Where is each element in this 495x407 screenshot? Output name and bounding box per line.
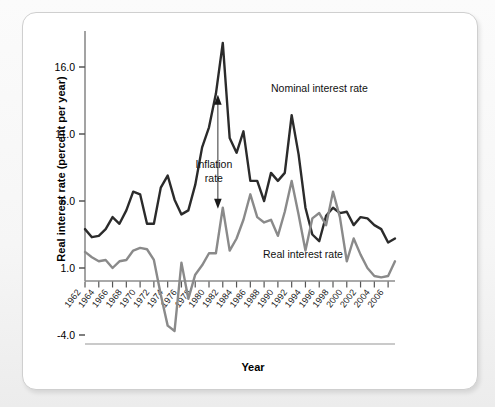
series-line-real [85, 181, 395, 331]
x-axis-title: Year [173, 361, 333, 373]
inflation-rate-arrow [214, 95, 222, 209]
line-chart: 16.011.06.01.0-4.0 196219641966196819701… [23, 13, 478, 390]
y-axis-title: Real interest rate (percent per year) [55, 69, 67, 269]
figure-card: Real interest rate (percent per year) Ye… [22, 12, 478, 390]
page-root: Real interest rate (percent per year) Ye… [0, 0, 495, 407]
chart-container: Real interest rate (percent per year) Ye… [23, 13, 478, 390]
annotation-real-interest-rate: Real interest rate [263, 248, 343, 260]
annotation-nominal-interest-rate: Nominal interest rate [271, 82, 368, 94]
x-tick-group: 1962196419661968197019721974197619781980… [62, 281, 388, 309]
annotation-inflation-rate-line1: Inflation [195, 158, 232, 170]
series-line-nominal [85, 43, 395, 243]
annotation-inflation-rate-line2: rate [205, 172, 223, 184]
x-tick-label: 2006 [365, 287, 385, 309]
y-tick-label: -4.0 [57, 329, 75, 341]
